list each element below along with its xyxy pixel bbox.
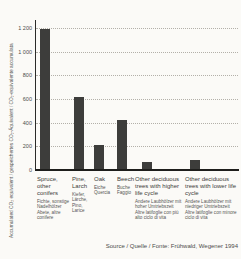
chart-page: Accumulated CO₂ equivalent / gespeichert… <box>0 0 241 259</box>
gridline-600 <box>36 99 238 100</box>
gridline-1200 <box>36 28 238 29</box>
source-note: Source / Quelle / Fonte: Frühwald, Wegen… <box>106 243 238 249</box>
bar-0 <box>40 29 50 170</box>
category-label-en: Oak <box>94 176 116 183</box>
plot-area: 02004006008001 0001 200 <box>36 28 238 170</box>
category-label-en: Other deciduous trees with lower life cy… <box>185 176 239 197</box>
category-label-en: Spruce, other conifers <box>37 176 71 197</box>
bar-1 <box>74 97 84 170</box>
category-label-it: Pino, Larice <box>72 203 94 214</box>
gridline-800 <box>36 75 238 76</box>
gridline-1000 <box>36 52 238 53</box>
y-tick-label-1000: 1 000 <box>2 49 32 55</box>
category-label-de: Andere Laubhölzer mit niedriger Umtriebs… <box>185 199 239 210</box>
gridline-400 <box>36 123 238 124</box>
y-tick-label-200: 200 <box>2 143 32 149</box>
y-axis-line <box>35 20 36 171</box>
bar-2 <box>94 145 104 170</box>
category-label-de: Andere Laubhölzer mit hoher Umtriebszeit <box>135 199 185 210</box>
category-label-5: Other deciduous trees with lower life cy… <box>185 176 239 221</box>
bar-3 <box>117 120 127 170</box>
category-label-it: Altre latifoglie con più alto ciclo di v… <box>135 210 185 221</box>
category-label-de: Fichte, sonstige Nadelhölzer <box>37 199 71 210</box>
category-label-de: Kiefer, Lärche, <box>72 192 94 203</box>
category-label-2: OakEicheQuercia <box>94 176 116 196</box>
category-label-it: Abete, altre conifere <box>37 210 71 221</box>
category-label-it: Quercia <box>94 190 116 195</box>
gridline-200 <box>36 146 238 147</box>
category-label-en: Other deciduous trees with higher life c… <box>135 176 185 197</box>
category-label-en: Pine, Larch <box>72 176 94 190</box>
x-axis-line <box>35 169 239 171</box>
y-tick-label-400: 400 <box>2 120 32 126</box>
y-tick-label-600: 600 <box>2 96 32 102</box>
y-tick-label-800: 800 <box>2 72 32 78</box>
category-label-4: Other deciduous trees with higher life c… <box>135 176 185 221</box>
category-label-1: Pine, LarchKiefer, Lärche,Pino, Larice <box>72 176 94 214</box>
y-tick-label-0: 0 <box>2 167 32 173</box>
category-label-0: Spruce, other conifersFichte, sonstige N… <box>37 176 71 221</box>
category-label-it: Altre latifoglie con minore ciclo di vit… <box>185 210 239 221</box>
y-tick-label-1200: 1 200 <box>2 25 32 31</box>
